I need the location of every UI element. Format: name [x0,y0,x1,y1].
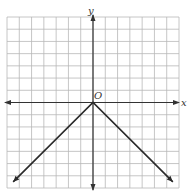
coordinate-plane: x y O [0,0,192,195]
y-axis-down-arrow-icon [91,184,96,191]
y-axis-label: y [87,5,94,16]
origin-label: O [94,90,102,101]
x-axis-label: x [181,97,187,108]
x-axis-left-arrow-icon [4,100,11,105]
